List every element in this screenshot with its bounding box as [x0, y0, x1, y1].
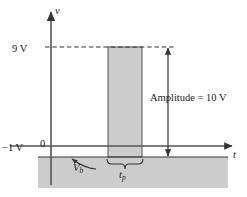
amplitude-label: Amplitude = 10 V: [150, 93, 227, 104]
pulse-width-label: tp: [119, 170, 126, 181]
horizontal-axis-label: t: [233, 150, 236, 161]
vertical-axis-label: v: [55, 6, 60, 17]
bias-shaded-region: [38, 157, 228, 188]
lower-level-label: −1 V: [2, 143, 23, 154]
bias-voltage-subscript: b: [79, 166, 83, 175]
origin-label: 0: [40, 139, 45, 150]
pulse-waveform-figure: v t 0 9 V −1 V Amplitude = 10 V Vb tp: [0, 0, 247, 197]
bias-voltage-label: Vb: [73, 163, 83, 174]
pulse-width-subscript: p: [122, 173, 126, 182]
pulse-shaded-region: [108, 47, 142, 157]
upper-level-label: 9 V: [12, 44, 27, 55]
